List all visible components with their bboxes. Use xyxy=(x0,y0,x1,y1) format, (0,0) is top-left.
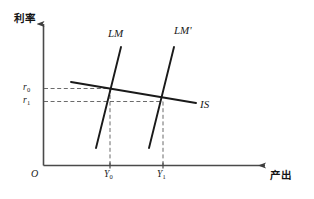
figure-canvas: 利率 产出 LM LM' IS r0 r1 Y0 Y1 O xyxy=(0,0,314,199)
guide-lines-group xyxy=(44,88,163,165)
y-tick-label-r1: r1 xyxy=(23,96,30,106)
y-tick-label-r0: r0 xyxy=(23,83,30,93)
x-tick-y0-base: Y xyxy=(104,169,109,179)
x-tick-label-y1: Y1 xyxy=(157,170,166,180)
x-tick-y0-subscript: 0 xyxy=(110,173,113,180)
x-tick-y1-base: Y xyxy=(157,169,162,179)
y-tick-r1-subscript: 1 xyxy=(27,99,30,106)
origin-label: O xyxy=(31,169,38,179)
curves-group xyxy=(71,47,196,148)
x-tick-label-y0: Y0 xyxy=(104,170,113,180)
curve-label-is: IS xyxy=(200,99,209,110)
y-tick-r0-subscript: 0 xyxy=(27,86,30,93)
curve-label-lm: LM xyxy=(108,28,123,39)
curve-is xyxy=(71,82,196,103)
axis-group xyxy=(44,24,266,166)
curve-lm xyxy=(96,47,121,148)
curve-label-lm-shifted: LM' xyxy=(174,25,192,36)
x-tick-y1-subscript: 1 xyxy=(163,173,166,180)
x-axis-title: 产出 xyxy=(270,170,291,181)
y-axis-title: 利率 xyxy=(14,13,35,24)
